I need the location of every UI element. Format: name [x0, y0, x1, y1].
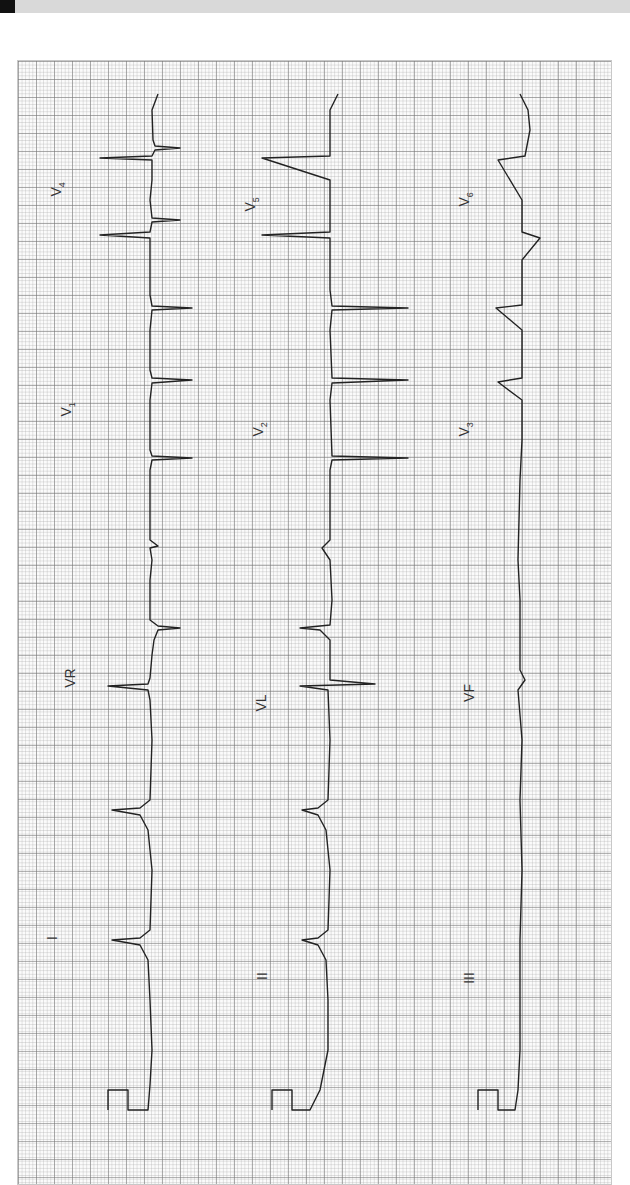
trace-row1 [100, 94, 192, 1110]
lead-label-v4: V4 [48, 182, 67, 196]
lead-label-v1: V1 [58, 402, 77, 416]
lead-label-v5: V5 [242, 197, 261, 211]
lead-label-iii: III [461, 972, 477, 984]
lead-label-v3: V3 [456, 422, 475, 436]
lead-label-v6: V6 [456, 192, 475, 206]
lead-label-vl: VL [253, 694, 269, 711]
lead-label-vf: VF [461, 684, 477, 702]
lead-label-v2: V2 [250, 422, 269, 436]
lead-label-ii: II [254, 972, 270, 980]
lead-label-i: I [44, 936, 60, 940]
trace-row2 [262, 94, 408, 1110]
lead-label-vr: VR [62, 668, 78, 687]
trace-row3 [478, 94, 540, 1110]
